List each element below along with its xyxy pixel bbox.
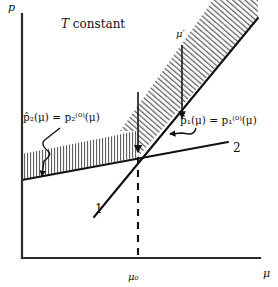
- curve-1-label: 1: [95, 203, 103, 215]
- p2-equation-label: p̂₂(μ) = p₂⁽⁰⁾(μ): [23, 112, 100, 123]
- p1-pointer-arrow: [170, 128, 196, 134]
- t-constant-annotation: T constant: [61, 18, 125, 30]
- mu0-tick-label: μ₀: [128, 272, 139, 282]
- curve-2-label: 2: [233, 142, 241, 154]
- x-axis-label: μ: [263, 268, 270, 279]
- p1-equation-label: p̂₁(μ) = p₁⁽⁰⁾(μ): [180, 115, 257, 126]
- hatched-band-left: [22, 131, 138, 180]
- y-axis-label: p: [8, 2, 15, 13]
- mu-prime-label: μ′: [176, 29, 185, 39]
- t-constant-symbol: T: [61, 17, 69, 31]
- t-constant-text: constant: [69, 17, 125, 31]
- figure-canvas: p μ μ₀ T constant μ′ p̂₂(μ) = p₂⁽⁰⁾(μ) p…: [0, 0, 278, 287]
